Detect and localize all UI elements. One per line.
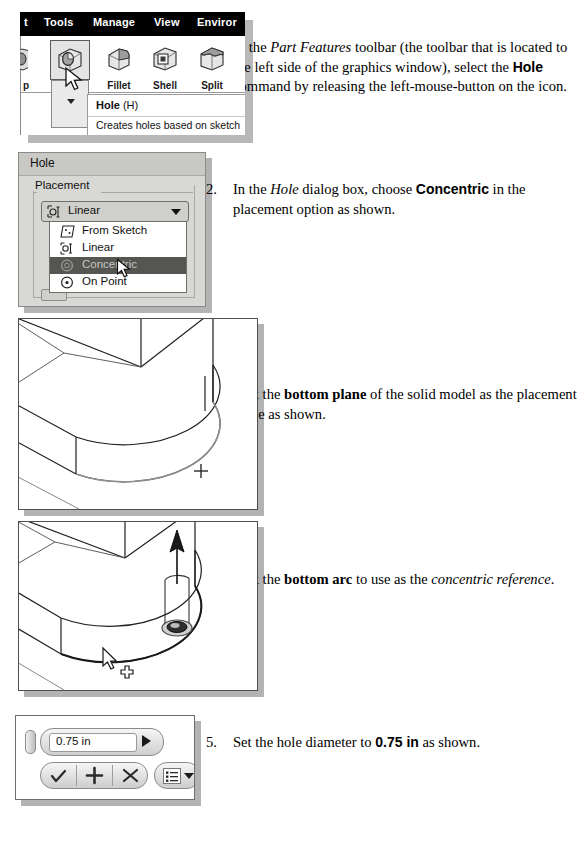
isometric-solid-model — [19, 319, 257, 509]
placement-dropdown-list[interactable]: From Sketch Linear C — [49, 221, 187, 293]
chevron-down-icon[interactable] — [171, 209, 181, 215]
linear-placement-icon — [60, 242, 75, 255]
plus-icon — [77, 763, 112, 788]
step-text: In the Part Features toolbar (the toolba… — [233, 38, 578, 97]
group-border-right — [101, 192, 193, 193]
toolbar-panel: p Hole — [20, 36, 245, 135]
from-sketch-icon — [60, 225, 75, 238]
partial-toolbar-label: p — [23, 80, 29, 91]
step-number: 2. — [206, 180, 230, 200]
placement-combobox-value: Linear — [68, 204, 100, 216]
placement-combobox[interactable]: Linear — [41, 201, 189, 222]
mouse-cursor-icon — [64, 66, 86, 94]
figure-hole-dialog: Hole Placement Linear — [18, 152, 206, 307]
dialog-title-bar: Hole — [19, 153, 205, 176]
step-text: Pick the bottom plane of the solid model… — [233, 385, 578, 424]
tooltip-title: Hole (H) — [96, 99, 138, 111]
menu-item-tools[interactable]: Tools — [44, 16, 74, 28]
shell-cube-icon — [152, 46, 178, 72]
step-3: 3. Pick the bottom plane of the solid mo… — [206, 385, 578, 424]
menu-item-environ[interactable]: Enviror — [197, 16, 237, 28]
group-border-left — [33, 192, 37, 193]
options-menu-button[interactable] — [154, 762, 195, 789]
drag-grip-icon[interactable] — [25, 730, 36, 754]
list-menu-icon — [163, 768, 181, 784]
application-menu-bar: t Tools Manage View Enviror — [20, 12, 245, 36]
step-number: 5. — [206, 733, 230, 753]
add-button[interactable] — [77, 763, 112, 788]
toolbar-button-shell[interactable] — [146, 40, 184, 78]
cancel-button[interactable] — [113, 763, 148, 788]
toolbar-button-fillet[interactable] — [100, 40, 138, 78]
play-arrow-icon[interactable] — [142, 735, 151, 747]
tooltip-description: Creates holes based on sketch — [96, 119, 240, 131]
dropdown-option-from-sketch[interactable]: From Sketch — [50, 223, 186, 240]
tutorial-page: t Tools Manage View Enviror p — [0, 0, 586, 852]
step-text: In the Hole dialog box, choose Concentri… — [233, 180, 578, 219]
toolbar-label-fillet: Fillet — [96, 80, 142, 91]
split-cube-icon — [199, 46, 225, 72]
figure-model-bottom-plane — [18, 318, 258, 510]
dropdown-option-label: Linear — [82, 241, 114, 253]
on-point-icon — [60, 276, 75, 289]
step-2: 2. In the Hole dialog box, choose Concen… — [206, 180, 578, 219]
mouse-cursor-icon — [116, 258, 133, 280]
isometric-solid-model-with-hole-preview — [19, 522, 257, 690]
placement-group-label: Placement — [31, 179, 93, 191]
dialog-title: Hole — [30, 156, 55, 170]
toolbar-label-split: Split — [189, 80, 235, 91]
fillet-cube-icon — [106, 46, 132, 72]
step-text: Pick the bottom arc to use as the concen… — [233, 570, 578, 590]
tooltip-hole: Hole (H) Creates holes based on sketch — [87, 94, 245, 135]
hole-diameter-field[interactable]: 0.75 in — [40, 728, 164, 756]
tooltip-shortcut: (H) — [123, 99, 138, 111]
figure-model-bottom-arc — [18, 521, 258, 691]
hole-diameter-input[interactable]: 0.75 in — [49, 733, 137, 752]
dropdown-option-label: From Sketch — [82, 224, 147, 236]
check-icon — [41, 763, 76, 788]
chevron-down-icon[interactable] — [184, 773, 194, 779]
chevron-down-icon — [67, 99, 75, 104]
close-icon — [113, 763, 148, 788]
hole-diameter-value: 0.75 in — [56, 735, 91, 747]
figure-dimension-toolbar: 0.75 in — [15, 715, 195, 800]
tooltip-divider — [88, 116, 245, 117]
menu-item-0[interactable]: t — [24, 16, 28, 28]
menu-item-manage[interactable]: Manage — [93, 16, 135, 28]
linear-placement-icon — [47, 205, 64, 219]
step-1: 1. In the Part Features toolbar (the too… — [206, 38, 578, 97]
accept-button[interactable] — [41, 763, 76, 788]
tooltip-title-text: Hole — [96, 99, 120, 111]
menu-item-view[interactable]: View — [154, 16, 180, 28]
concentric-icon — [60, 259, 75, 272]
partial-toolbar-icon — [20, 40, 28, 78]
dimension-button-group — [40, 762, 148, 789]
figure-part-features-toolbar: t Tools Manage View Enviror p — [20, 12, 245, 135]
toolbar-label-shell: Shell — [142, 80, 188, 91]
toolbar-button-split[interactable] — [193, 40, 231, 78]
step-text: Set the hole diameter to 0.75 in as show… — [233, 733, 578, 753]
step-5: 5. Set the hole diameter to 0.75 in as s… — [206, 733, 578, 753]
step-4: 4. Pick the bottom arc to use as the con… — [206, 570, 578, 590]
dropdown-option-linear[interactable]: Linear — [50, 240, 186, 257]
hole-preview-cylinder — [162, 575, 192, 636]
